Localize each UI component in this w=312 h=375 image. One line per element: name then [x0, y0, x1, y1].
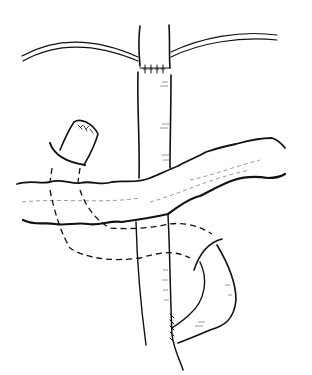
transverse-colon [17, 138, 285, 225]
vertical-bowel-segment [136, 25, 183, 370]
mesentery-strands [22, 34, 277, 61]
upper-anastomosis-sutures [140, 65, 170, 73]
closed-stump [50, 121, 98, 166]
illustration [0, 0, 312, 375]
